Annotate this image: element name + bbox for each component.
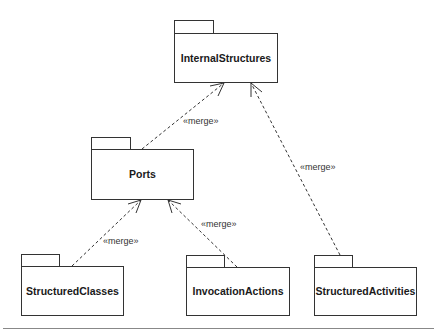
merge-dependency-structured-activities-to-internal: «merge» [251, 83, 340, 255]
package-name: InternalStructures [181, 52, 272, 64]
open-arrowhead-icon [251, 83, 262, 97]
dashed-line [72, 200, 141, 266]
merge-label: «merge» [183, 116, 219, 126]
package-invocation-actions[interactable]: InvocationActions [187, 256, 290, 316]
package-name: InvocationActions [192, 285, 283, 297]
open-arrowhead-icon [168, 200, 181, 213]
package-structured-classes[interactable]: StructuredClasses [22, 255, 124, 316]
open-arrowhead-icon [210, 83, 224, 96]
package-tab [92, 138, 131, 150]
package-name: StructuredActivities [316, 285, 416, 297]
package-tab [315, 256, 353, 268]
package-tab [187, 256, 225, 268]
package-name: StructuredClasses [26, 285, 119, 297]
merge-dependency-ports-to-internal: «merge» [142, 83, 224, 149]
package-diagram: InternalStructures Ports StructuredClass… [0, 0, 442, 335]
package-ports[interactable]: Ports [92, 138, 194, 200]
merge-label: «merge» [103, 236, 139, 246]
package-internal-structures[interactable]: InternalStructures [175, 21, 278, 83]
package-tab [22, 255, 60, 267]
merge-label: «merge» [300, 162, 336, 172]
package-structured-activities[interactable]: StructuredActivities [315, 256, 417, 316]
merge-label: «merge» [201, 219, 237, 229]
package-name: Ports [129, 168, 156, 180]
merge-dependency-structured-classes-to-ports: «merge» [72, 200, 141, 266]
package-tab [175, 21, 214, 34]
